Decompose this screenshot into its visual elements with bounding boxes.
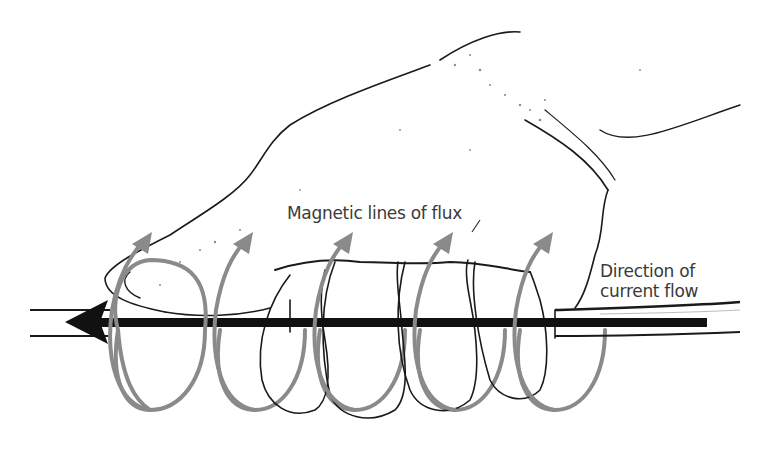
flux-label: Magnetic lines of flux	[287, 203, 462, 223]
current-flow-arrow	[65, 300, 707, 344]
flux-label-leader	[472, 220, 480, 232]
current-flow-label: Direction of current flow	[600, 261, 698, 301]
current-flow-label-line2: current flow	[600, 281, 698, 301]
right-hand-rule-diagram	[0, 0, 765, 464]
flux-loops-front	[115, 260, 205, 410]
current-flow-label-line1: Direction of	[600, 261, 698, 281]
